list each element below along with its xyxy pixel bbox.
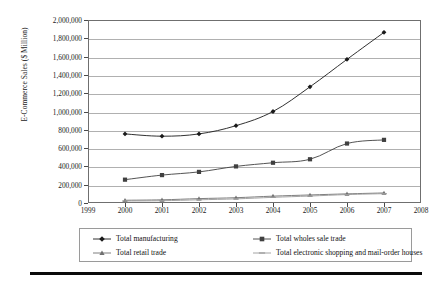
data-point-marker (123, 178, 127, 182)
legend-marker-square-icon (252, 234, 272, 244)
series-2 (123, 138, 386, 182)
data-point-marker (160, 173, 164, 177)
x-tick-label: 2004 (253, 206, 293, 215)
legend-entry[interactable]: Total retail trade (92, 248, 166, 258)
legend-label: Total manufacturing (116, 234, 178, 244)
data-point-marker (307, 195, 313, 196)
x-tick-mark (162, 203, 163, 207)
chart-area: E-Commerce Sales ($ Million) 0200,000400… (0, 0, 447, 222)
series-layer (88, 20, 421, 203)
y-tick-label: 800,000 (26, 125, 82, 134)
data-point-marker (233, 198, 239, 199)
y-tick-label: 1,400,000 (26, 70, 82, 79)
bottom-rule-divider (30, 272, 422, 275)
legend-marker-dash-icon (252, 248, 272, 258)
data-point-marker (159, 200, 165, 201)
x-tick-label: 2000 (105, 206, 145, 215)
data-point-marker (160, 134, 165, 139)
data-point-marker (345, 141, 349, 145)
y-tick-label: 2,000,000 (26, 16, 82, 25)
legend-label: Total electronic shopping and mail-order… (276, 248, 422, 258)
legend-label: Total retail trade (116, 248, 166, 258)
legend-label: Total wholes sale trade (276, 234, 346, 244)
x-tick-label: 2007 (364, 206, 404, 215)
legend: Total manufacturingTotal wholes sale tra… (79, 228, 412, 262)
data-point-marker (196, 199, 202, 200)
x-tick-label: 2001 (142, 206, 182, 215)
legend-entry[interactable]: Total wholes sale trade (252, 234, 346, 244)
legend-marker-triangle-icon (92, 248, 112, 258)
x-tick-mark (310, 203, 311, 207)
x-tick-label: 2005 (290, 206, 330, 215)
legend-entry[interactable]: Total electronic shopping and mail-order… (252, 248, 422, 258)
y-tick-label: 200,000 (26, 180, 82, 189)
y-tick-label: 1,600,000 (26, 52, 82, 61)
data-point-marker (271, 109, 276, 114)
x-tick-mark (347, 203, 348, 207)
x-tick-mark (199, 203, 200, 207)
legend-entry[interactable]: Total manufacturing (92, 234, 178, 244)
x-tick-mark (273, 203, 274, 207)
x-tick-label: 2002 (179, 206, 219, 215)
figure-container: E-Commerce Sales ($ Million) 0200,000400… (0, 0, 447, 287)
x-tick-mark (236, 203, 237, 207)
y-tick-label: 1,800,000 (26, 34, 82, 43)
x-tick-label: 2006 (327, 206, 367, 215)
y-tick-mark (84, 203, 88, 204)
data-point-marker (344, 194, 350, 195)
y-tick-label: 1,000,000 (26, 107, 82, 116)
series-1 (123, 30, 387, 139)
x-tick-label: 2008 (401, 206, 441, 215)
data-point-marker (270, 197, 276, 198)
data-point-marker (382, 138, 386, 142)
y-tick-label: 1,200,000 (26, 89, 82, 98)
x-tick-mark (384, 203, 385, 207)
data-point-marker (271, 161, 275, 165)
series-line (125, 32, 384, 136)
data-point-marker (197, 170, 201, 174)
data-point-marker (123, 132, 128, 137)
data-point-marker (234, 123, 239, 128)
x-tick-mark (125, 203, 126, 207)
legend-marker-diamond-icon (92, 234, 112, 244)
data-point-marker (308, 157, 312, 161)
x-tick-label: 2003 (216, 206, 256, 215)
x-tick-label: 1999 (68, 206, 108, 215)
y-tick-label: 400,000 (26, 162, 82, 171)
data-point-marker (197, 132, 202, 137)
data-point-marker (122, 200, 128, 201)
data-point-marker (381, 193, 387, 194)
data-point-marker (234, 164, 238, 168)
y-tick-label: 600,000 (26, 144, 82, 153)
